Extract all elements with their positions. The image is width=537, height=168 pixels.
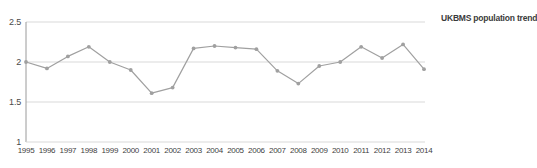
axis-lines: [26, 22, 425, 142]
data-point: [317, 64, 321, 68]
data-point: [359, 45, 363, 49]
data-point: [255, 47, 259, 51]
data-point: [380, 56, 384, 60]
data-point: [108, 60, 112, 64]
y-tick-label: 1.5: [1, 97, 21, 107]
data-point: [192, 47, 196, 51]
data-point: [150, 91, 154, 95]
y-tick-label: 2: [1, 57, 21, 67]
gridlines: [26, 22, 425, 102]
legend-entry-ukbms: UKBMS population trend: [441, 13, 537, 23]
data-point: [296, 82, 300, 86]
data-point: [275, 69, 279, 73]
data-point: [87, 45, 91, 49]
data-point: [234, 46, 238, 50]
y-tick-label: 2.5: [1, 17, 21, 27]
data-point: [45, 67, 49, 71]
series-markers-ukbms: [24, 43, 426, 96]
x-tick-label: 2014: [412, 146, 436, 156]
data-point: [213, 44, 217, 48]
data-point: [171, 86, 175, 90]
data-point: [129, 68, 133, 72]
data-point: [338, 60, 342, 64]
data-point: [401, 43, 405, 47]
data-point: [422, 67, 426, 71]
series-line-ukbms: [26, 44, 424, 93]
data-point: [66, 55, 70, 59]
data-point: [24, 60, 28, 64]
